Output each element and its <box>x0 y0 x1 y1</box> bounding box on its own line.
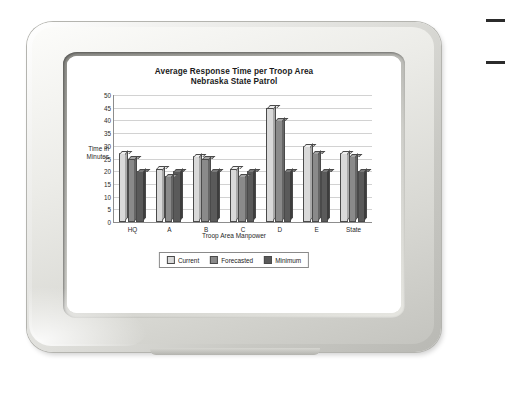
y-axis-title: Time in Minutes <box>67 145 109 161</box>
bar-minimum-a <box>173 171 181 222</box>
bar-side-face <box>245 174 248 221</box>
y-axis-title-line1: Time in <box>67 145 109 153</box>
bar-minimum-b <box>210 171 218 222</box>
chart-title: Average Response Time per Troop Area Neb… <box>67 67 401 87</box>
bar-forecasted-e <box>312 153 320 222</box>
y-tick-label: 20 <box>104 168 111 175</box>
bar-current-d <box>266 108 274 222</box>
legend-label: Forecasted <box>221 257 253 264</box>
bar-side-face <box>236 166 239 221</box>
bar-side-face <box>143 169 146 221</box>
bar-group <box>303 95 328 222</box>
bar-current-c <box>230 169 238 222</box>
bar-side-face <box>364 169 367 221</box>
plot-area-wrapper: Time in Minutes 05101520253035404550 HQA… <box>113 95 372 223</box>
plot-area: 05101520253035404550 HQABCDEState <box>113 95 372 223</box>
bar-current-b <box>193 156 201 222</box>
bar-group <box>193 95 218 222</box>
bar-group <box>119 95 144 222</box>
bar-side-face <box>171 174 174 221</box>
bar-minimum-state <box>358 171 366 222</box>
bottom-dash-mark <box>486 61 505 64</box>
bar-forecasted-hq <box>128 159 136 223</box>
y-tick-label: 0 <box>107 219 111 226</box>
legend-label: Current <box>178 257 199 264</box>
y-tick-label: 30 <box>104 142 111 149</box>
bar-side-face <box>290 169 293 221</box>
bar-side-face <box>134 156 137 221</box>
legend-item: Forecasted <box>210 256 253 264</box>
bar-current-hq <box>119 153 127 222</box>
bar-groups <box>114 95 372 222</box>
monitor-screen: Average Response Time per Troop Area Neb… <box>67 56 401 313</box>
bar-side-face <box>208 156 211 221</box>
bar-forecasted-state <box>349 156 357 222</box>
bar-side-face <box>253 169 256 221</box>
bar-side-face <box>347 151 350 221</box>
legend-label: Minimum <box>275 257 301 264</box>
legend-item: Current <box>167 256 199 264</box>
y-tick-label: 15 <box>104 180 111 187</box>
crt-monitor: Average Response Time per Troop Area Neb… <box>27 22 441 352</box>
bar-side-face <box>273 105 276 221</box>
bar-side-face <box>199 154 202 221</box>
bar-side-face <box>282 118 285 221</box>
top-dash-mark <box>486 19 505 22</box>
bar-current-state <box>340 153 348 222</box>
bar-side-face <box>162 166 165 221</box>
y-tick-label: 50 <box>104 92 111 99</box>
bar-side-face <box>355 154 358 221</box>
chart-title-line1: Average Response Time per Troop Area <box>67 67 401 77</box>
bar-group <box>340 95 365 222</box>
y-tick-label: 25 <box>104 155 111 162</box>
y-axis-title-line2: Minutes <box>67 153 109 161</box>
bar-minimum-d <box>284 171 292 222</box>
bar-forecasted-a <box>165 176 173 222</box>
bar-forecasted-b <box>201 159 209 223</box>
bar-group <box>156 95 181 222</box>
legend-swatch <box>167 256 175 264</box>
bar-side-face <box>310 143 313 221</box>
y-tick-label: 5 <box>107 206 111 213</box>
monitor-stand <box>150 348 320 355</box>
bar-group <box>266 95 291 222</box>
bar-forecasted-c <box>238 176 246 222</box>
legend-swatch <box>264 256 272 264</box>
bar-minimum-hq <box>136 171 144 222</box>
y-tick-label: 40 <box>104 117 111 124</box>
bar-minimum-c <box>247 171 255 222</box>
chart-legend: CurrentForecastedMinimum <box>159 252 309 268</box>
y-tick-label: 35 <box>104 130 111 137</box>
y-tick-label: 10 <box>104 193 111 200</box>
chart-title-line2: Nebraska State Patrol <box>67 77 401 87</box>
legend-swatch <box>210 256 218 264</box>
bar-forecasted-d <box>275 120 283 222</box>
screen-recess: Average Response Time per Troop Area Neb… <box>63 52 405 318</box>
x-axis-title: Troop Area Manpower <box>67 232 401 239</box>
bar-minimum-e <box>321 171 329 222</box>
bar-chart: Average Response Time per Troop Area Neb… <box>67 56 401 313</box>
bar-group <box>230 95 255 222</box>
y-tick-label: 45 <box>104 104 111 111</box>
bar-current-e <box>303 146 311 222</box>
legend-item: Minimum <box>264 256 301 264</box>
bar-side-face <box>217 169 220 221</box>
bar-current-a <box>156 169 164 222</box>
bar-side-face <box>180 169 183 221</box>
bar-side-face <box>327 169 330 221</box>
